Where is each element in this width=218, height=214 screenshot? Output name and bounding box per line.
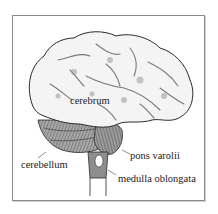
cerebellum-leader bbox=[38, 152, 46, 158]
label-medulla-oblongata: medulla oblongata bbox=[118, 173, 196, 184]
medulla-leader bbox=[108, 170, 116, 175]
medulla-oblongata bbox=[88, 152, 108, 196]
pons-leader bbox=[122, 150, 130, 154]
label-pons-varolii: pons varolii bbox=[130, 150, 180, 161]
label-cerebellum: cerebellum bbox=[21, 159, 68, 170]
brain-illustration: cerebrum cerebellum pons varolii medulla… bbox=[0, 0, 218, 214]
label-cerebrum: cerebrum bbox=[70, 95, 110, 106]
cerebrum bbox=[29, 32, 193, 127]
